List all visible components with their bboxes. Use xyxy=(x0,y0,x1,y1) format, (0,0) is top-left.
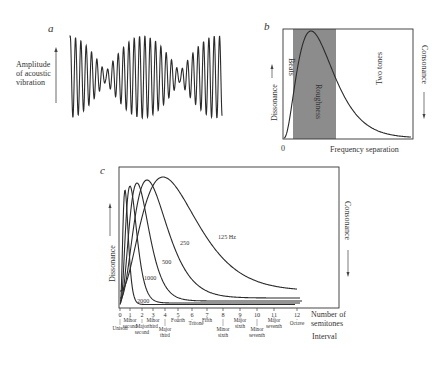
semitone-tick-label: 4 xyxy=(163,311,166,318)
arrow-up-icon xyxy=(109,203,112,208)
curve-label-250: 250 xyxy=(180,239,189,246)
interval-name: second xyxy=(135,329,150,335)
panel-b-label: b xyxy=(264,20,270,32)
dissonance-label: Dissonance xyxy=(270,84,279,121)
panel-a-label: a xyxy=(48,22,54,34)
semitone-tick-label: 6 xyxy=(190,311,193,318)
semitone-axis: 0Unison1Minorsecond2Majorsecond3Minorthi… xyxy=(113,308,306,338)
consonance-label: Consonance xyxy=(343,201,352,241)
interval-name: Octave xyxy=(290,320,305,326)
semitone-tick-label: 0 xyxy=(118,311,121,318)
consonance-label: Consonance xyxy=(420,45,429,85)
interval-name: Fourth xyxy=(171,317,185,323)
interval-name: seventh xyxy=(249,332,265,338)
panel-c: c 125 Hz 250 500 1000 2000 Dissonance Co… xyxy=(100,164,352,341)
panel-c-label: c xyxy=(100,164,105,176)
semitones-label-line1: Number of xyxy=(311,310,346,319)
curve-label-125hz: 125 Hz xyxy=(218,233,236,240)
amplitude-label-line2: of acoustic xyxy=(16,69,51,78)
curve-label-500: 500 xyxy=(162,258,171,265)
interval-label: Interval xyxy=(312,332,338,341)
panel-a: a Amplitude of acoustic vibration xyxy=(16,22,222,118)
panel-b: b Beats Roughness Two tones Dissonance C… xyxy=(264,20,429,154)
dissonance-curves xyxy=(120,177,302,305)
amplitude-label-line1: Amplitude xyxy=(16,60,51,69)
dissonance-label: Dissonance xyxy=(108,245,117,282)
frequency-separation-label: Frequency separation xyxy=(330,145,399,154)
curve-label-2000: 2000 xyxy=(137,297,149,304)
arrow-down-icon xyxy=(347,272,350,277)
semitone-tick-label: 8 xyxy=(221,311,224,318)
semitone-tick-label: 10 xyxy=(254,311,260,318)
semitone-tick-label: 12 xyxy=(294,311,300,318)
arrow-down-icon xyxy=(423,114,426,119)
region-roughness: Roughness xyxy=(314,84,323,119)
region-beats: Beats xyxy=(287,58,296,76)
amplitude-label-line3: vibration xyxy=(16,78,45,87)
region-two-tones: Two tones xyxy=(375,52,384,85)
semitone-tick-label: 2 xyxy=(140,311,143,318)
interval-name: Fifth xyxy=(202,317,212,323)
origin-label: 0 xyxy=(281,144,285,153)
arrow-up-icon xyxy=(54,47,57,52)
curve-label-1000: 1000 xyxy=(144,274,156,281)
figure: a Amplitude of acoustic vibration b Beat… xyxy=(0,0,446,366)
interval-name: sixth xyxy=(218,332,228,338)
semitones-label-line2: semitones xyxy=(311,319,343,328)
interval-name: sixth xyxy=(235,323,245,329)
beats-waveform xyxy=(70,36,222,118)
interval-name: third xyxy=(148,323,158,329)
interval-name: third xyxy=(160,332,170,338)
interval-name: seventh xyxy=(266,323,282,329)
arrow-up-icon xyxy=(271,64,274,69)
